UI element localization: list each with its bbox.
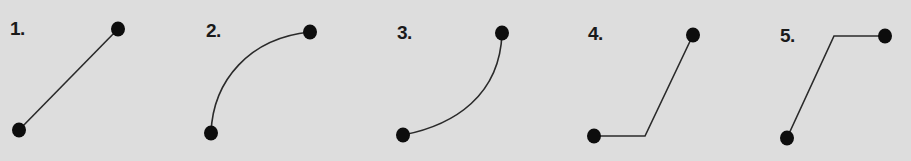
diagram-canvas: 1. 2. 3. 4. 5. xyxy=(0,0,911,161)
end-point-dot-5 xyxy=(878,29,892,44)
connector-path-4 xyxy=(594,35,693,136)
connector-path-3 xyxy=(403,33,502,135)
start-point-dot-5 xyxy=(780,131,794,146)
path-shapes-diagram xyxy=(0,0,911,161)
start-point-dot-4 xyxy=(587,129,601,144)
end-point-dot-4 xyxy=(686,28,700,43)
start-point-dot-3 xyxy=(396,128,410,143)
end-point-dot-3 xyxy=(495,26,509,41)
panel-label-2: 2. xyxy=(206,21,221,40)
connector-path-1 xyxy=(19,29,118,130)
panel-label-5: 5. xyxy=(780,26,795,45)
start-point-dot-2 xyxy=(204,126,218,141)
end-point-dot-1 xyxy=(111,22,125,37)
panel-label-1: 1. xyxy=(10,19,25,38)
connector-path-2 xyxy=(211,32,310,133)
panel-label-3: 3. xyxy=(397,23,412,42)
connector-path-5 xyxy=(787,36,885,138)
panel-label-4: 4. xyxy=(588,24,603,43)
start-point-dot-1 xyxy=(12,123,26,138)
end-point-dot-2 xyxy=(303,25,317,40)
